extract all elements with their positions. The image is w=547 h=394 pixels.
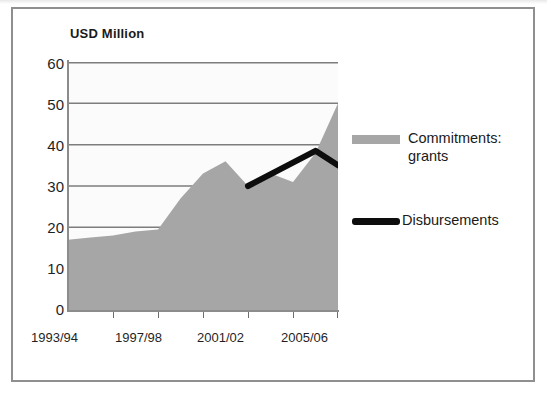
x-tick-label-2001-02: 2001/02 <box>197 331 244 344</box>
scan-edge-artifact <box>0 0 547 4</box>
y-tick-label-10: 10 <box>22 261 64 276</box>
y-tick-label-0: 0 <box>22 302 64 317</box>
y-tick-label-60: 60 <box>22 56 64 71</box>
legend-item-commitments-grants: Commitments: grants <box>352 130 530 165</box>
legend-swatch-area-icon <box>352 135 400 144</box>
y-tick-label-30: 30 <box>22 179 64 194</box>
x-tick-mark-2 <box>158 312 159 318</box>
series-area-commitments-grants <box>68 103 338 310</box>
chart-figure: USD Million 60 50 40 30 20 10 0 <box>0 0 547 394</box>
chart-title: USD Million <box>70 26 144 41</box>
x-tick-mark-4 <box>248 312 249 318</box>
y-tick-label-50: 50 <box>22 97 64 112</box>
legend-label-commitments-grants: Commitments: grants <box>408 130 530 165</box>
legend-label-disbursements: Disbursements <box>402 212 499 230</box>
y-tick-label-20: 20 <box>22 220 64 235</box>
x-tick-mark-3 <box>203 312 204 318</box>
plot-area <box>68 62 338 310</box>
plot-svg <box>68 62 338 310</box>
legend-swatch-line-icon <box>352 218 400 225</box>
x-tick-label-2005-06: 2005/06 <box>281 331 328 344</box>
y-axis-line <box>67 60 69 312</box>
x-tick-label-1997-98: 1997/98 <box>115 331 162 344</box>
legend-item-disbursements: Disbursements <box>352 212 499 230</box>
x-tick-mark-5 <box>293 312 294 318</box>
x-tick-mark-6 <box>337 312 338 318</box>
y-tick-label-40: 40 <box>22 138 64 153</box>
x-tick-label-1993-94: 1993/94 <box>31 331 78 344</box>
x-tick-mark-1 <box>113 312 114 318</box>
